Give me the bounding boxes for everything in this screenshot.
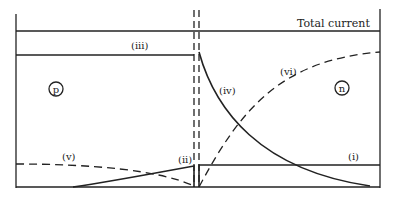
pn-junction-current-diagram: Total current p n (iii) (iv) (vi) (v) (i…	[0, 0, 394, 198]
curve-ii	[73, 166, 194, 187]
label-i: (i)	[348, 151, 359, 162]
label-iii: (iii)	[131, 40, 148, 51]
p-region-label: p	[53, 84, 59, 95]
label-vi: (vi)	[280, 66, 297, 77]
label-iv: (iv)	[219, 85, 236, 96]
n-region-label: n	[339, 83, 346, 94]
label-v: (v)	[62, 151, 76, 162]
total-current-label: Total current	[297, 17, 370, 30]
label-ii: (ii)	[178, 154, 192, 165]
